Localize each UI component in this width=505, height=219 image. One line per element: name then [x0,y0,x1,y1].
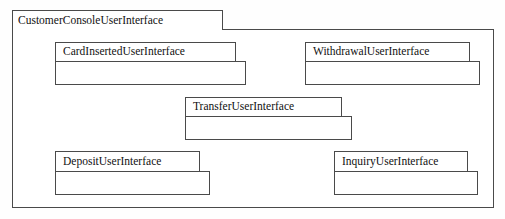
class-body-compartment [185,116,352,140]
class-name-label: InquiryUserInterface [342,156,438,168]
class-name-label: TransferUserInterface [193,101,294,113]
class-header-compartment: DepositUserInterface [55,151,200,172]
class-body-compartment [305,61,480,85]
class-header-compartment: WithdrawalUserInterface [305,42,470,62]
class-header-compartment: CardInsertedUserInterface [55,42,236,62]
class-header-compartment: InquiryUserInterface [334,151,468,172]
class-body-compartment [334,171,478,195]
class-header-compartment: TransferUserInterface [185,97,342,117]
class-body-compartment [55,171,210,195]
class-body-compartment [55,61,246,85]
class-name-label: WithdrawalUserInterface [313,46,429,58]
package-tab: CustomerConsoleUserInterface [12,10,223,30]
class-name-label: CardInsertedUserInterface [63,46,185,58]
package-name-label: CustomerConsoleUserInterface [18,15,163,27]
class-name-label: DepositUserInterface [63,156,161,168]
uml-package-diagram-canvas: CustomerConsoleUserInterface CardInserte… [0,0,505,219]
